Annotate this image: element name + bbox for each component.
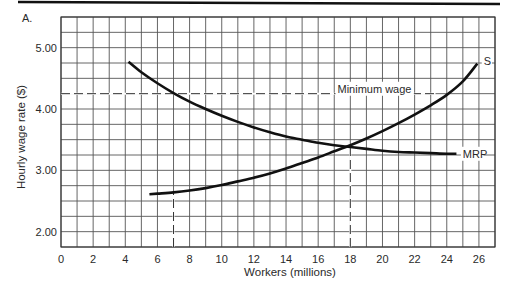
- top-rule: [18, 2, 500, 4]
- x-tick-label: 22: [409, 253, 421, 265]
- curves: [129, 62, 478, 194]
- y-tick-label: 3.00: [36, 164, 57, 176]
- x-tick-label: 2: [90, 253, 96, 265]
- x-tick-label: 0: [58, 253, 64, 265]
- x-tick-label: 4: [122, 253, 128, 265]
- x-tick-label: 14: [280, 253, 292, 265]
- annotations: Minimum wageSMRP: [335, 54, 491, 161]
- plot-border: [61, 17, 495, 247]
- y-tick-label: 4.00: [36, 103, 57, 115]
- annotation-minimum-wage: Minimum wage: [337, 83, 411, 95]
- x-tick-label: 6: [154, 253, 160, 265]
- y-tick-label: 5.00: [36, 42, 57, 54]
- x-axis-ticks: 02468101214161820222426: [58, 253, 485, 265]
- x-tick-label: 18: [344, 253, 356, 265]
- y-tick-label: 2.00: [36, 226, 57, 238]
- y-axis-ticks: 2.003.004.005.00: [36, 42, 57, 238]
- panel-label: A.: [22, 12, 32, 24]
- curve-s: [149, 64, 477, 195]
- annotation-mrp: MRP: [463, 148, 487, 160]
- wage-chart: A. 2.003.004.005.00 02468101214161820222…: [0, 0, 512, 295]
- annotation-s: S: [484, 55, 491, 67]
- x-tick-label: 10: [216, 253, 228, 265]
- x-tick-label: 26: [473, 253, 485, 265]
- grid: [61, 17, 495, 247]
- x-tick-label: 20: [376, 253, 388, 265]
- x-tick-label: 16: [312, 253, 324, 265]
- x-axis-label: Workers (millions): [244, 266, 336, 278]
- x-tick-label: 8: [187, 253, 193, 265]
- y-axis-label: Hourly wage rate ($): [15, 85, 27, 189]
- x-tick-label: 12: [248, 253, 260, 265]
- x-tick-label: 24: [441, 253, 453, 265]
